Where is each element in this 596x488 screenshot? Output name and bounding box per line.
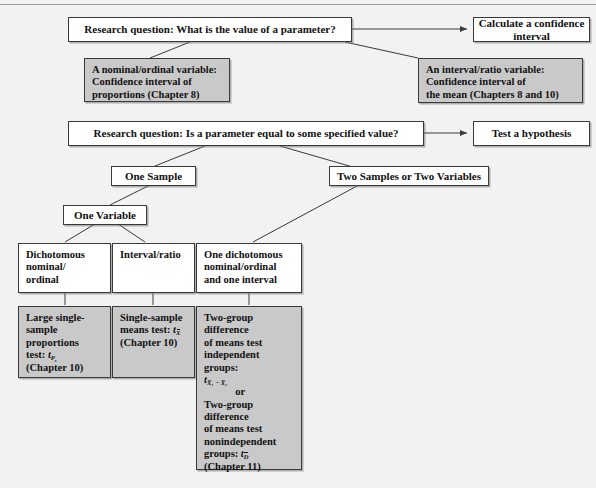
node-label-line1: Two-group <box>204 312 276 324</box>
node-two-samples-or-two-variables: Two Samples or Two Variables <box>329 166 489 186</box>
node-label-line7: difference <box>204 411 276 423</box>
node-ci-proportions: A nominal/ordinal variable: Confidence i… <box>84 58 230 102</box>
groups-prefix: groups: <box>204 448 241 459</box>
node-test-a-hypothesis: Test a hypothesis <box>473 121 590 146</box>
node-label-line3: the mean (Chapters 8 and 10) <box>426 89 559 101</box>
node-label-line2: Confidence interval of <box>92 76 217 88</box>
node-label-line1: Single-sample <box>120 312 182 324</box>
node-label-line2: nominal/ <box>26 261 85 273</box>
node-label: Interval/ratio <box>120 249 181 261</box>
node-label: Calculate a confidence interval <box>474 17 589 43</box>
node-label-line4: test: tPs <box>26 349 85 361</box>
connector-q1-to-ciprop <box>150 42 190 58</box>
connector-q1-to-cimean <box>345 42 418 58</box>
node-label-line2: nominal/ordinal <box>204 261 282 273</box>
node-label-line2: means test: tX <box>120 324 182 336</box>
node-label-line1: Dichotomous <box>26 249 85 261</box>
node-notation-independent: tX̅₁ − X̅₂ <box>204 374 276 386</box>
statistic-notation-tx1x2: tX̅₁ − X̅₂ <box>204 374 227 385</box>
node-label-line3: (Chapter 10) <box>120 337 182 349</box>
node-label-or: or <box>204 386 276 398</box>
test-prefix: means test: <box>120 324 173 335</box>
node-label-line1: An interval/ratio variable: <box>426 64 559 76</box>
node-label-line3: proportions <box>26 337 85 349</box>
node-label-line3: and one interval <box>204 274 282 286</box>
node-calculate-confidence-interval: Calculate a confidence interval <box>473 17 590 42</box>
node-label-line5: groups: <box>204 362 276 374</box>
node-two-group-difference-of-means-test: Two-group difference of means test indep… <box>196 306 302 470</box>
node-label: Research question: What is the value of … <box>84 23 335 36</box>
node-label-line6: Two-group <box>204 399 276 411</box>
connector-twosamples-to-onedich <box>253 186 357 242</box>
notation-sub: X̅₁ − X̅₂ <box>207 379 227 386</box>
node-label-line2: difference <box>204 324 276 336</box>
node-research-question-value: Research question: What is the value of … <box>68 17 352 42</box>
node-label-line3: proportions (Chapter 8) <box>92 89 217 101</box>
node-label-line2: Confidence interval of <box>426 76 559 88</box>
statistic-notation-tps: tPs <box>48 349 57 360</box>
node-label-line11: (Chapter 11) <box>204 461 276 473</box>
node-label: One Sample <box>125 170 182 183</box>
node-research-question-hypothesis: Research question: Is a parameter equal … <box>68 121 424 146</box>
node-label-line4: independent <box>204 349 276 361</box>
overbar <box>177 329 180 330</box>
node-interval-ratio: Interval/ratio <box>112 243 195 293</box>
connector-onevariable-to-dichotomous <box>65 224 95 242</box>
node-label-line1: A nominal/ordinal variable: <box>92 64 217 76</box>
test-prefix: test: <box>26 349 48 360</box>
node-label-line5: (Chapter 10) <box>26 362 85 374</box>
statistic-notation-txbar: tX <box>173 324 180 335</box>
node-label: Research question: Is a parameter equal … <box>94 127 399 140</box>
node-label-line1: One dichotomous <box>204 249 282 261</box>
node-label-line9: nonindependent <box>204 436 276 448</box>
connector-onesample-to-onevariable <box>110 185 150 205</box>
node-label-line2: sample <box>26 324 85 336</box>
top-divider-rule <box>0 4 596 5</box>
node-one-variable: One Variable <box>63 205 147 225</box>
node-label: Two Samples or Two Variables <box>337 170 481 183</box>
overbar <box>244 452 248 453</box>
flowchart-canvas: Research question: What is the value of … <box>0 0 596 488</box>
node-single-sample-means-test: Single-sample means test: tX (Chapter 10… <box>112 306 195 378</box>
node-ci-mean: An interval/ratio variable: Confidence i… <box>418 58 583 103</box>
node-label: Test a hypothesis <box>492 127 572 140</box>
node-label-line3: of means test <box>204 337 276 349</box>
node-label-line10: groups: tD <box>204 448 276 460</box>
statistic-notation-tdbar: tD <box>241 448 249 459</box>
node-label-line3: ordinal <box>26 274 85 286</box>
node-large-sample-proportions-test: Large single- sample proportions test: t… <box>18 306 111 378</box>
notation-sub: D <box>244 453 249 460</box>
node-one-sample: One Sample <box>111 166 196 186</box>
node-label: One Variable <box>74 209 136 222</box>
node-label-line8: of means test <box>204 423 276 435</box>
connector-onevariable-to-intervalratio <box>118 224 145 242</box>
notation-sub: X <box>176 329 180 336</box>
node-label-line1: Large single- <box>26 312 85 324</box>
notation-subsub: s <box>55 358 57 363</box>
node-dichotomous-nominal-ordinal: Dichotomous nominal/ ordinal <box>18 243 111 293</box>
connector-q2-to-onesample <box>155 146 205 166</box>
node-one-dichotomous-and-one-interval: One dichotomous nominal/ordinal and one … <box>196 243 302 293</box>
